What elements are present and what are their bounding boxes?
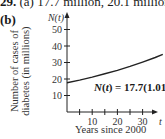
equation-label: N(t) = 17.7(1.018)t	[94, 79, 165, 93]
y-tick-label: 40	[52, 41, 62, 52]
x-axis-label: Years since 2000	[75, 124, 146, 135]
x-axis-arrow-icon	[152, 110, 158, 115]
y-axis-arrow-icon	[65, 12, 70, 18]
y-tick-label: 10	[52, 90, 62, 101]
y-tick-label: 50	[52, 24, 62, 35]
y-axis-symbol: N(t)	[47, 12, 65, 24]
x-axis-symbol: t	[159, 116, 162, 127]
y-tick-label: 30	[52, 57, 62, 68]
y-tick-label: 20	[52, 74, 62, 85]
y-axis-label: Number of cases of diabetes (in millions…	[9, 15, 31, 127]
